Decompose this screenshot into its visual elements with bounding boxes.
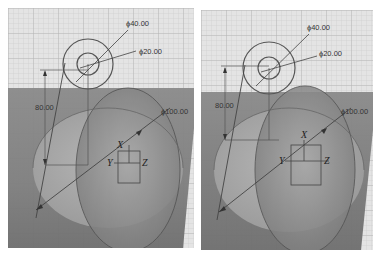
dim-large-diameter[interactable]: ϕ100.00 bbox=[341, 107, 368, 116]
dim-large-diameter[interactable]: ϕ100.00 bbox=[161, 107, 188, 116]
dim-outer-diameter[interactable]: ϕ40.00 bbox=[126, 19, 149, 28]
dim-inner-diameter[interactable]: ϕ20.00 bbox=[319, 49, 342, 58]
axis-z-label: Z bbox=[324, 155, 330, 166]
axis-z-label: Z bbox=[142, 157, 148, 168]
axis-x-label: X bbox=[300, 129, 308, 140]
dim-inner-diameter[interactable]: ϕ20.00 bbox=[139, 47, 162, 56]
dim-height[interactable]: 80.00 bbox=[35, 103, 54, 112]
cad-viewport-right[interactable]: ϕ40.00 ϕ20.00 80.00 ϕ100.00 X Y Z bbox=[201, 10, 373, 250]
cad-viewport-left[interactable]: ϕ40.00 ϕ20.00 80.00 ϕ100.00 X Y Z bbox=[8, 8, 194, 248]
cad-canvas-left[interactable]: ϕ40.00 ϕ20.00 80.00 ϕ100.00 X Y Z bbox=[8, 8, 194, 248]
large-disc[interactable] bbox=[255, 86, 355, 250]
dim-height[interactable]: 80.00 bbox=[215, 101, 234, 110]
dim-outer-diameter[interactable]: ϕ40.00 bbox=[307, 23, 330, 32]
cad-canvas-right[interactable]: ϕ40.00 ϕ20.00 80.00 ϕ100.00 X Y Z bbox=[201, 10, 373, 250]
axis-x-label: X bbox=[116, 139, 124, 150]
